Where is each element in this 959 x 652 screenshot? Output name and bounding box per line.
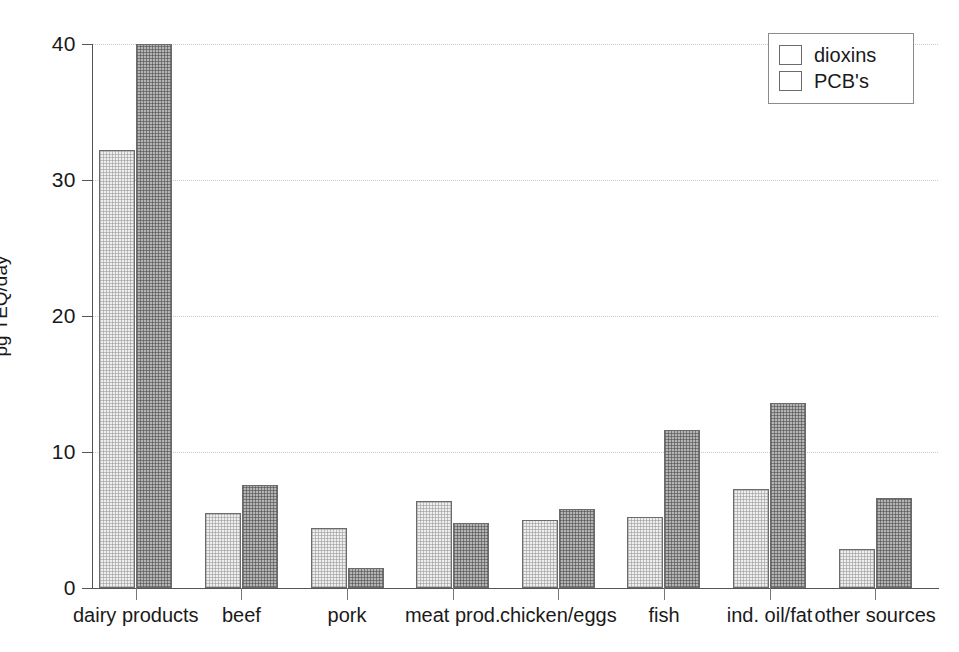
x-tick-label: ind. oil/fat <box>727 604 813 627</box>
y-tick-label: 10 <box>52 440 76 464</box>
legend-swatch-icon <box>779 45 802 65</box>
bar-dioxins-dairy-products[interactable] <box>99 150 135 588</box>
bar-group <box>516 44 622 588</box>
bar-dioxins-beef[interactable] <box>205 513 241 588</box>
x-tick-mark <box>136 588 137 600</box>
bar-dioxins-other-sources[interactable] <box>839 549 875 588</box>
x-tick-mark <box>770 588 771 600</box>
bar-dioxins-fish[interactable] <box>627 517 663 588</box>
x-tick-mark <box>453 588 454 600</box>
bar-dioxins-chicken-eggs[interactable] <box>522 520 558 588</box>
bars-layer <box>93 44 938 588</box>
bar-pcb-s-beef[interactable] <box>242 485 278 588</box>
bar-pcb-s-other-sources[interactable] <box>876 498 912 588</box>
bar-pcb-s-pork[interactable] <box>348 568 384 588</box>
bar-group <box>410 44 516 588</box>
y-axis-title: pg TEQ/day <box>0 191 12 421</box>
bar-group <box>93 44 199 588</box>
chart-legend: dioxinsPCB's <box>768 33 914 104</box>
y-tick-mark <box>82 588 93 589</box>
y-tick-mark <box>82 44 93 45</box>
x-tick-label: meat prod. <box>405 604 501 627</box>
y-tick-label: 30 <box>52 168 76 192</box>
bar-pcb-s-dairy-products[interactable] <box>136 44 172 588</box>
x-tick-label: chicken/eggs <box>500 604 617 627</box>
x-tick-mark <box>664 588 665 600</box>
bar-pcb-s-meat-prod[interactable] <box>453 523 489 588</box>
bar-pcb-s-chicken-eggs[interactable] <box>559 509 595 588</box>
y-tick-mark <box>82 316 93 317</box>
bar-dioxins-ind-oil-fat[interactable] <box>733 489 769 588</box>
x-tick-label: other sources <box>815 604 936 627</box>
legend-item-dioxins[interactable]: dioxins <box>779 42 903 68</box>
x-tick-mark <box>558 588 559 600</box>
bar-pcb-s-ind-oil-fat[interactable] <box>770 403 806 588</box>
bar-dioxins-pork[interactable] <box>311 528 347 588</box>
bar-pcb-s-fish[interactable] <box>664 430 700 588</box>
x-tick-label: fish <box>648 604 679 627</box>
legend-swatch-icon <box>779 71 802 91</box>
y-tick-label: 40 <box>52 32 76 56</box>
x-tick-label: beef <box>222 604 261 627</box>
bar-group <box>304 44 410 588</box>
legend-item-pcb-s[interactable]: PCB's <box>779 68 903 94</box>
bar-group <box>832 44 938 588</box>
x-tick-mark <box>347 588 348 600</box>
chart-page: 010203040 pg TEQ/day dairy productsbeefp… <box>0 0 959 652</box>
x-tick-mark <box>241 588 242 600</box>
x-tick-mark <box>875 588 876 600</box>
bar-dioxins-meat-prod[interactable] <box>416 501 452 588</box>
y-tick-mark <box>82 452 93 453</box>
x-axis-spine <box>92 588 939 589</box>
x-tick-label: dairy products <box>73 604 199 627</box>
y-tick-label: 0 <box>64 576 76 600</box>
y-tick-label: 20 <box>52 304 76 328</box>
y-tick-mark <box>82 180 93 181</box>
legend-label: PCB's <box>814 70 869 93</box>
bar-group <box>199 44 305 588</box>
bar-group <box>727 44 833 588</box>
x-tick-label: pork <box>328 604 367 627</box>
legend-label: dioxins <box>814 44 876 67</box>
bar-group <box>621 44 727 588</box>
